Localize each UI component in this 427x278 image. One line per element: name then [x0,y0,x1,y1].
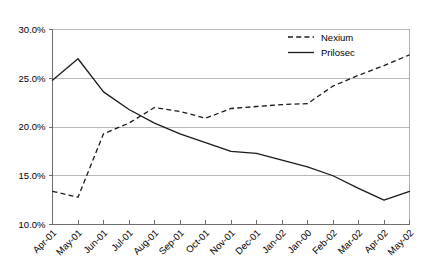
x-tick-label: Feb-02 [310,227,339,256]
x-tick-label: Nov-01 [207,227,236,256]
data-series [53,55,410,200]
y-tick-label: 20.0% [19,121,46,132]
x-tick-label: Aug-01 [131,227,160,256]
legend-label-nexium: Nexium [321,32,353,43]
x-tick-label: Sep-01 [156,227,185,256]
x-tick-label: Mar-02 [335,227,364,256]
series-line-prilosec [53,59,410,200]
chart-legend: NexiumPrilosec [288,32,355,59]
x-tick-label: Oct-01 [183,227,211,255]
legend-label-prilosec: Prilosec [321,47,355,58]
chart-canvas: 10.0%15.0%20.0%25.0%30.0% Apr-01May-01Ju… [0,0,427,278]
y-tick-label: 30.0% [19,24,46,35]
gridlines [53,30,410,225]
x-tick-label: Jan-02 [260,227,288,255]
y-tick-label: 10.0% [19,219,46,230]
x-tick-label: Jan-00 [285,227,313,255]
x-tick-label: Dec-01 [233,227,262,256]
y-tick-label: 15.0% [19,170,46,181]
y-tick-label: 25.0% [19,73,46,84]
line-chart: 10.0%15.0%20.0%25.0%30.0% Apr-01May-01Ju… [0,0,427,278]
y-axis: 10.0%15.0%20.0%25.0%30.0% [19,24,53,230]
x-axis: Apr-01May-01Jun-01Jul-01Aug-01Sep-01Oct-… [30,220,415,258]
x-tick-label: May-02 [385,227,415,257]
x-tick-label: Jun-01 [81,227,109,255]
x-tick-label: May-01 [54,227,84,257]
